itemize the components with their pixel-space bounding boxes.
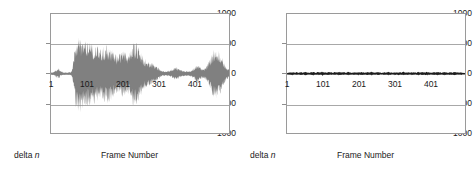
left-ylabel-prefix: delta bbox=[14, 150, 35, 160]
left-xtick-101: 101 bbox=[76, 80, 98, 89]
left-waveform-plot bbox=[51, 14, 229, 133]
left-xtick-201: 201 bbox=[112, 80, 134, 89]
left-plot-frame bbox=[50, 13, 230, 134]
right-xlabel: Frame Number bbox=[337, 150, 394, 160]
right-xtick-1: 1 bbox=[281, 80, 293, 89]
right-xtick-201: 201 bbox=[348, 80, 370, 89]
left-xtick-1: 1 bbox=[45, 80, 57, 89]
right-ylabel-prefix: delta bbox=[250, 150, 271, 160]
right-xtick-401: 401 bbox=[420, 80, 442, 89]
left-xlabel: Frame Number bbox=[101, 150, 158, 160]
right-xtick-301: 301 bbox=[384, 80, 406, 89]
left-ylabel: delta n bbox=[14, 150, 40, 160]
left-ylabel-symbol: n bbox=[35, 150, 40, 160]
left-xtick-301: 301 bbox=[148, 80, 170, 89]
chart-panel-right: 1000 500 0 -500 -1000 1 101 201 301 401 … bbox=[236, 0, 472, 169]
right-xtick-101: 101 bbox=[312, 80, 334, 89]
right-ylabel-symbol: n bbox=[271, 150, 276, 160]
chart-panel-left: 1000 500 0 -500 -1000 1 101 201 301 401 … bbox=[0, 0, 236, 169]
right-ylabel: delta n bbox=[250, 150, 276, 160]
dual-waveform-figure: 1000 500 0 -500 -1000 1 101 201 301 401 … bbox=[0, 0, 473, 169]
right-plot-frame bbox=[286, 13, 466, 134]
left-xtick-401: 401 bbox=[184, 80, 206, 89]
right-waveform-plot bbox=[287, 14, 465, 133]
